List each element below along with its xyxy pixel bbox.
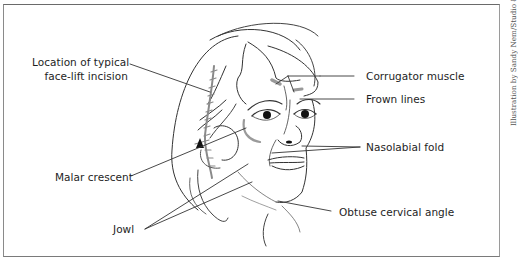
label-jowl: Jowl xyxy=(113,222,134,236)
leader-nasolabial-1 xyxy=(302,146,360,147)
label-malar-crescent: Malar crescent xyxy=(55,170,133,184)
leader-nasolabial-2 xyxy=(272,147,360,153)
right-eyebrow xyxy=(297,100,320,105)
neck-right xyxy=(282,206,300,232)
ear-outline xyxy=(214,126,238,161)
hair-back-contour xyxy=(172,36,238,210)
label-corrugator-muscle: Corrugator muscle xyxy=(366,69,465,83)
label-incision-line2: face-lift incision xyxy=(32,69,128,83)
hair-side-strand-4 xyxy=(210,104,236,138)
leader-jowl-1 xyxy=(145,164,248,229)
leader-corrugator-c xyxy=(288,76,294,92)
nostril xyxy=(286,140,292,143)
frown-mark-right xyxy=(294,89,302,90)
label-obtuse-cervical-angle: Obtuse cervical angle xyxy=(339,205,454,219)
leader-malar xyxy=(131,128,246,176)
leader-corrugator-b xyxy=(276,76,288,84)
glabella-lines xyxy=(284,86,287,110)
jaw-contour xyxy=(238,172,276,202)
label-incision-line1: Location of typical xyxy=(32,55,128,69)
illustration-credit: Illustration by Sandy Nem/Studio 8 Graph… xyxy=(508,6,518,126)
leader-incision xyxy=(130,64,210,92)
upper-lip xyxy=(268,157,304,160)
malar-crescent xyxy=(244,120,260,142)
label-frown-lines: Frown lines xyxy=(366,92,425,106)
hair-strand-1 xyxy=(237,44,246,104)
hair-outline xyxy=(218,23,318,36)
left-eyebrow xyxy=(248,101,282,110)
left-eye-iris xyxy=(263,111,271,119)
right-eye-iris xyxy=(301,110,309,118)
lower-lip xyxy=(272,166,304,170)
neck-left xyxy=(263,214,268,246)
label-nasolabial-fold: Nasolabial fold xyxy=(366,140,444,154)
label-incision: Location of typical face-lift incision xyxy=(32,55,128,83)
lip-line xyxy=(270,162,304,163)
hair-strand-4 xyxy=(296,40,315,86)
credit-text: Illustration by Sandy Nem/Studio 8 Graph… xyxy=(509,0,518,126)
jowl-fold xyxy=(242,196,276,210)
incision-line xyxy=(205,66,214,178)
leader-lines xyxy=(130,64,360,229)
